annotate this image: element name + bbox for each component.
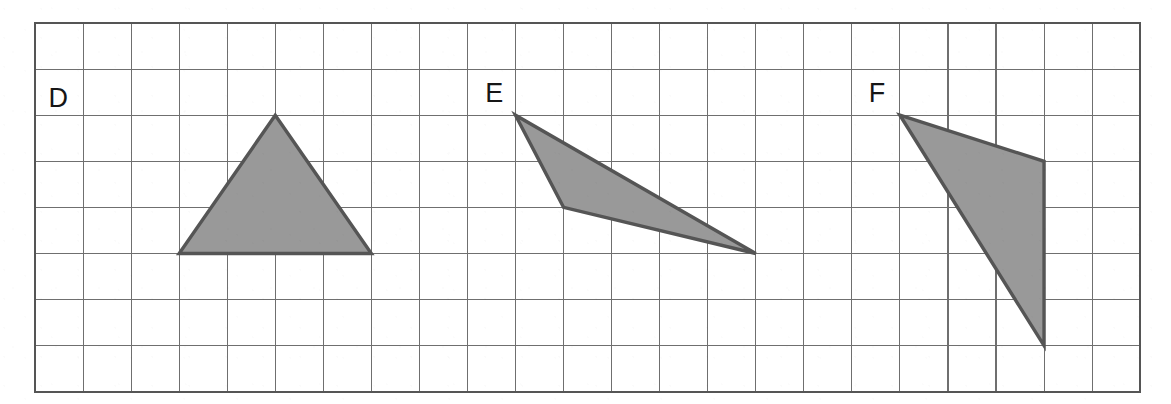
shape-label-e: E — [485, 78, 503, 108]
worksheet-figure: DEF — [0, 0, 1171, 404]
shape-label-d: D — [48, 83, 67, 113]
grid-canvas: DEF — [0, 0, 1171, 404]
shape-label-f: F — [869, 78, 886, 108]
